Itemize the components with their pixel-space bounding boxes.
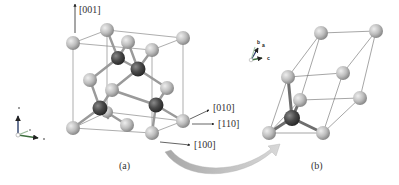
direction-100-arrow	[160, 142, 190, 145]
axes-triad-b	[249, 47, 262, 62]
direction-label-001: [001]	[79, 5, 101, 15]
axis-label-c: c	[267, 56, 270, 61]
direction-label-010: [010]	[213, 103, 235, 113]
axes-triad-a	[16, 107, 45, 140]
axis-label-a: a	[262, 43, 265, 48]
direction-010-arrow	[190, 110, 209, 119]
panel-a-caption: (a)	[119, 161, 130, 171]
direction-label-110: [110]	[218, 119, 239, 129]
panel-a-conventional-cell	[16, 4, 214, 145]
crystal-structure-figure	[0, 0, 399, 185]
primitive-atoms	[262, 24, 383, 140]
panel-b-primitive-cell	[249, 24, 383, 140]
panel-b-caption: (b)	[311, 161, 323, 171]
transform-arrow	[165, 144, 280, 174]
axis-label-b: b	[257, 40, 260, 45]
dark-atoms	[93, 51, 164, 116]
direction-label-100: [100]	[194, 140, 216, 150]
